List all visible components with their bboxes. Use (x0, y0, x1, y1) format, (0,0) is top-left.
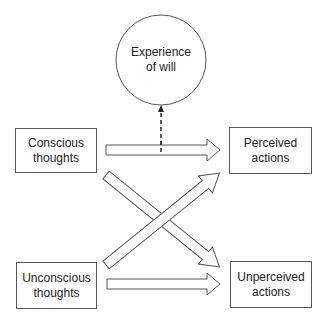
will-label: Experience of will (116, 45, 206, 75)
conscious-line1: Conscious (28, 136, 84, 151)
conscious-line2: thoughts (28, 151, 84, 166)
perceived-line2: actions (244, 151, 297, 166)
unperceived-line1: Unperceived (237, 270, 304, 285)
will-label-line2: of will (116, 60, 206, 75)
unconscious-line2: thoughts (22, 286, 91, 301)
arrow-unconscious-to-unperceived (107, 273, 220, 295)
perceived-actions-box: Perceived actions (229, 127, 312, 174)
unconscious-thoughts-box: Unconscious thoughts (16, 262, 97, 309)
conscious-thoughts-box: Conscious thoughts (15, 128, 97, 173)
unconscious-line1: Unconscious (22, 271, 91, 286)
will-label-line1: Experience (116, 45, 206, 60)
arrow-conscious-to-perceived (106, 139, 220, 161)
unperceived-actions-box: Unperceived actions (230, 261, 312, 308)
unperceived-line2: actions (237, 285, 304, 300)
perceived-line1: Perceived (244, 136, 297, 151)
